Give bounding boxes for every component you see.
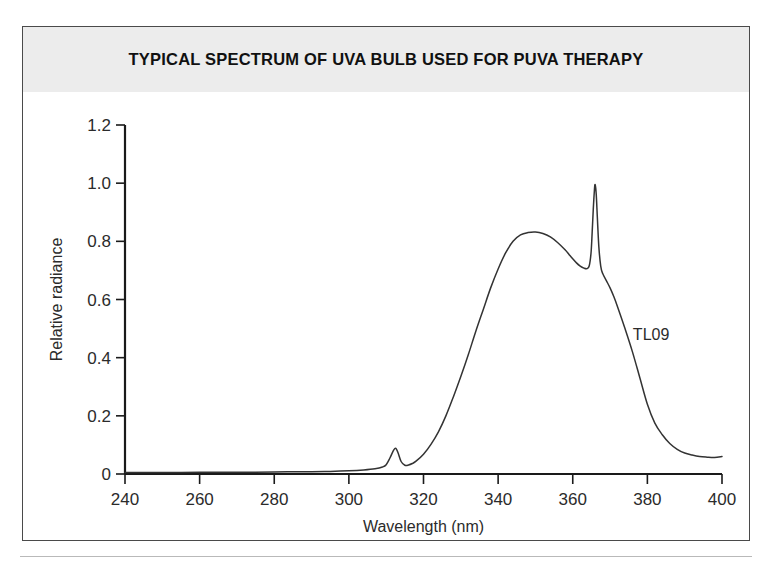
y-tick-label: 0.6 — [87, 291, 111, 310]
x-tick-label: 400 — [708, 490, 736, 509]
x-tick-label: 360 — [559, 490, 587, 509]
y-tick-label: 0.2 — [87, 407, 111, 426]
x-tick-label: 240 — [111, 490, 139, 509]
y-tick-label: 0.4 — [87, 349, 111, 368]
x-tick-label: 300 — [335, 490, 363, 509]
x-tick-label: 320 — [409, 490, 437, 509]
x-axis-title: Wavelength (nm) — [363, 518, 484, 535]
y-axis-title: Relative radiance — [48, 238, 65, 362]
x-tick-label: 280 — [260, 490, 288, 509]
series-annotation-label: TL09 — [633, 326, 670, 343]
x-tick-label: 260 — [185, 490, 213, 509]
spectrum-chart: 00.20.40.60.81.01.2240260280300320340360… — [0, 0, 772, 561]
x-tick-label: 340 — [484, 490, 512, 509]
figure-container: TYPICAL SPECTRUM OF UVA BULB USED FOR PU… — [0, 0, 772, 561]
y-tick-label: 1.0 — [87, 174, 111, 193]
y-tick-label: 0 — [102, 465, 111, 484]
y-tick-label: 1.2 — [87, 116, 111, 135]
x-tick-label: 380 — [633, 490, 661, 509]
y-tick-label: 0.8 — [87, 232, 111, 251]
bottom-rule — [20, 556, 752, 557]
